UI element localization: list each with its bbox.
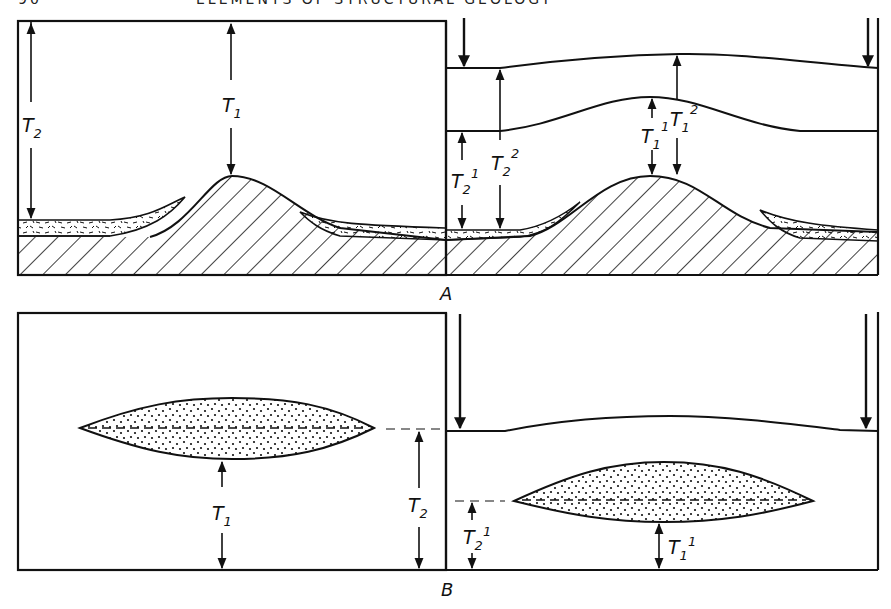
label-b-t2-1: T21 [463, 524, 491, 553]
panel-b-label: B [441, 579, 453, 600]
label-t1-1: T11 [641, 119, 669, 152]
panel-a: T2 T1 T21 [18, 18, 878, 304]
label-t1: T1 [222, 94, 242, 121]
label-t2-1: T21 [451, 166, 479, 197]
label-t2: T2 [22, 114, 42, 141]
panel-b-right-box: T21 T11 [446, 312, 878, 570]
panel-a-left-box: T2 T1 [18, 21, 446, 275]
label-t2-2: T22 [491, 146, 519, 179]
panel-a-right-box: T21 T22 T11 T12 [446, 18, 878, 275]
label-b-t1-1: T11 [668, 534, 696, 563]
label-b-t2: T2 [408, 494, 428, 521]
panel-b-left-box: T1 T2 [18, 313, 446, 570]
figure: T2 T1 T21 [0, 0, 891, 609]
label-t1-2: T12 [670, 102, 698, 135]
panel-b: T1 T2 T21 T11 [18, 312, 878, 600]
panel-a-label: A [439, 283, 452, 304]
label-b-t1: T1 [212, 502, 232, 529]
